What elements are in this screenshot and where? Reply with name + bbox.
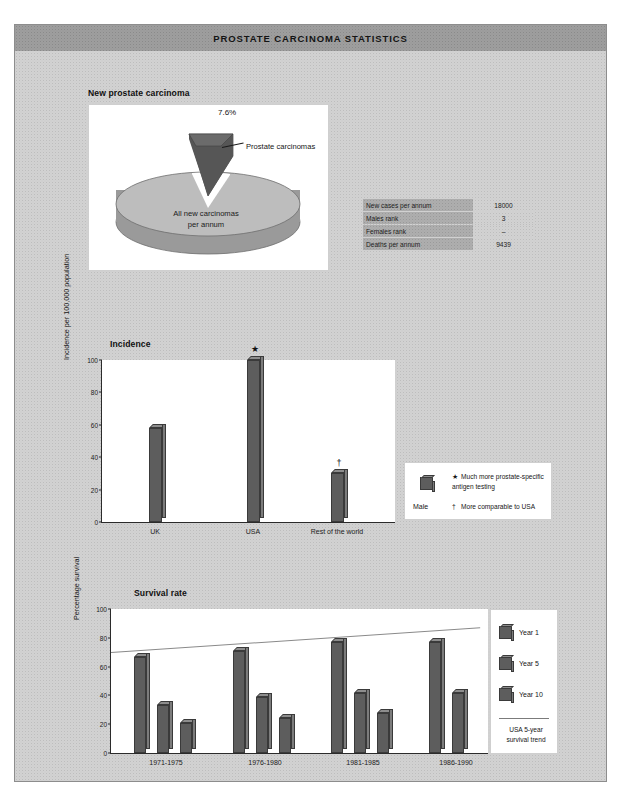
legend-label-trend: USA 5-year survival trend	[497, 725, 555, 744]
bar-side-face	[389, 709, 393, 749]
table-cell-value: 9439	[474, 238, 533, 250]
table-cell-key: Deaths per annum	[363, 238, 473, 250]
survival-x-label: 1971-1975	[149, 759, 182, 766]
bar-front-face	[452, 693, 464, 753]
table-cell-value: –	[474, 225, 533, 237]
dagger-icon: †	[452, 502, 461, 512]
table-cell-key: New cases per annum	[363, 199, 473, 211]
legend-label-year-5: Year 5	[519, 660, 539, 667]
survival-y-tickmark	[108, 637, 111, 638]
pie-panel-title: New prostate carcinoma	[88, 88, 190, 98]
survival-plot-area: 100 80 60 40 20 0	[110, 609, 488, 754]
table-row: New cases per annum 18000	[363, 199, 533, 211]
survival-panel-title: Survival rate	[134, 588, 187, 598]
bar-rest-of-world	[331, 473, 344, 522]
bar-1986-1990-year-5	[452, 693, 464, 753]
bar-1981-1985-year-1	[331, 642, 343, 753]
bar-side-face	[245, 647, 249, 749]
legend-swatch-year-1	[499, 626, 512, 639]
incidence-x-label: Rest of the world	[311, 528, 364, 535]
bar-front-face	[331, 642, 343, 753]
bar-1981-1985-year-5	[354, 693, 366, 753]
incidence-y-tickmark	[99, 392, 102, 393]
bar-side-face	[268, 693, 272, 749]
legend-swatch-male	[420, 477, 433, 490]
figure-page: PROSTATE CARCINOMA STATISTICS New prosta…	[0, 0, 621, 803]
legend-note-dagger-text: More comparable to USA	[461, 503, 535, 510]
incidence-x-label: UK	[150, 528, 160, 535]
survival-x-label: 1976-1980	[248, 759, 281, 766]
incidence-legend: Male ★Much more prostate-specific antige…	[404, 462, 552, 520]
bar-1976-1980-year-10	[279, 718, 291, 753]
pie-total-label-line2: per annum	[188, 220, 224, 229]
survival-y-tickmark	[108, 609, 111, 610]
table-row: Males rank 3	[363, 212, 533, 224]
table-row: Females rank –	[363, 225, 533, 237]
legend-swatch-side	[432, 481, 435, 492]
pie-total-label-line1: All new carcinomas	[173, 209, 238, 218]
bar-1971-1975-year-10	[180, 723, 192, 753]
bar-usa	[247, 360, 260, 522]
legend-label-year-1: Year 1	[519, 629, 539, 636]
incidence-x-label: USA	[246, 528, 260, 535]
legend-swatch-top	[500, 655, 514, 658]
pie-slice-percent: 7.6%	[218, 108, 236, 117]
bar-side-face	[162, 424, 166, 518]
legend-item-year-1: Year 1	[499, 626, 539, 639]
survival-y-tickmark	[108, 695, 111, 696]
incidence-y-tickmark	[99, 522, 102, 523]
bar-front-face	[180, 723, 192, 753]
bar-side-face	[146, 653, 150, 749]
bar-front-face	[331, 473, 344, 522]
legend-swatch-year-5	[499, 657, 512, 670]
bar-front-face	[233, 651, 245, 753]
bar-front-face	[354, 693, 366, 753]
table-cell-key: Males rank	[363, 212, 473, 224]
incidence-y-tickmark	[99, 489, 102, 490]
star-marker-usa: ★	[251, 345, 259, 354]
pie-svg	[88, 104, 329, 271]
legend-trend-line-swatch	[499, 718, 549, 719]
incidence-y-tickmark	[99, 360, 102, 361]
bar-1981-1985-year-10	[377, 713, 389, 753]
legend-label-trend-line2: survival trend	[506, 736, 545, 743]
bar-front-face	[247, 360, 260, 522]
legend-item-year-5: Year 5	[499, 657, 539, 670]
legend-swatch-side	[511, 661, 514, 672]
survival-y-tickmark	[108, 666, 111, 667]
bar-side-face	[260, 356, 264, 518]
bar-side-face	[366, 689, 370, 749]
survival-y-tickmark	[108, 753, 111, 754]
survival-x-label: 1986-1990	[439, 759, 472, 766]
legend-swatch-side	[511, 630, 514, 641]
figure-title-bar: PROSTATE CARCINOMA STATISTICS	[15, 25, 606, 51]
legend-swatch-top	[421, 475, 435, 478]
usa-5-year-survival-trend-line	[111, 627, 480, 653]
incidence-y-axis-label: Incidence per 100,000 population	[62, 254, 71, 360]
legend-note-star: ★Much more prostate-specific antigen tes…	[452, 472, 550, 491]
legend-swatch-top	[500, 624, 514, 627]
table-row: Deaths per annum 9439	[363, 238, 533, 250]
legend-swatch-side	[511, 692, 514, 703]
table-cell-key: Females rank	[363, 225, 473, 237]
bar-side-face	[169, 701, 173, 749]
legend-label-year-10: Year 10	[519, 691, 543, 698]
legend-note-dagger: †More comparable to USA	[452, 502, 552, 512]
bar-front-face	[256, 697, 268, 753]
bar-uk	[149, 428, 162, 522]
table-cell-value: 3	[474, 212, 533, 224]
bar-side-face	[343, 638, 347, 749]
legend-label-trend-line1: USA 5-year	[509, 726, 543, 733]
star-icon: ★	[452, 472, 461, 482]
legend-item-year-10: Year 10	[499, 688, 543, 701]
incidence-panel-title: Incidence	[110, 339, 151, 349]
pie-slice-label: Prostate carcinomas	[246, 142, 315, 151]
bar-1976-1980-year-5	[256, 697, 268, 753]
legend-label-male: Male	[413, 503, 428, 510]
pie-total-label: All new carcinomas per annum	[121, 208, 291, 230]
bar-side-face	[464, 689, 468, 749]
dagger-marker-rest-of-world: †	[336, 459, 341, 468]
bar-1971-1975-year-5	[157, 705, 169, 753]
bar-front-face	[157, 705, 169, 753]
bar-side-face	[192, 719, 196, 749]
